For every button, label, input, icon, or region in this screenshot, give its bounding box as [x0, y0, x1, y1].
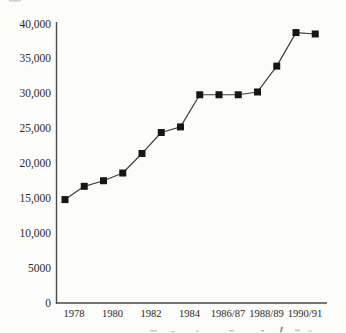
data-point-marker	[119, 170, 126, 177]
y-tick-label: 20,000	[19, 157, 51, 170]
y-axis-tick-labels: 0500010,00015,00020,00025,00030,00035,00…	[19, 18, 51, 310]
data-point-marker	[158, 129, 165, 136]
data-point-marker	[62, 196, 69, 203]
x-tick-label: 1990/91	[288, 308, 323, 319]
x-tick-label: 1978	[63, 308, 84, 319]
x-tick-label: 1988/89	[249, 308, 284, 319]
y-tick-label: 40,000	[19, 18, 51, 31]
data-point-marker	[100, 177, 107, 184]
y-tick-label: 25,000	[19, 122, 51, 135]
x-tick-label: 1980	[102, 308, 123, 319]
y-tick-label: 15,000	[19, 192, 51, 205]
data-point-marker	[81, 183, 88, 190]
data-point-marker	[312, 30, 319, 37]
x-tick-label: 1982	[140, 308, 161, 319]
y-tick-label: 0	[45, 297, 51, 309]
data-point-marker	[196, 91, 203, 98]
y-tick-label: 10,000	[19, 227, 51, 240]
growth-line-chart: 0500010,00015,00020,00025,00030,00035,00…	[0, 0, 346, 333]
y-tick-label: 30,000	[19, 87, 51, 100]
scan-artifact-bottom	[150, 327, 312, 333]
x-tick-label: 1984	[179, 308, 201, 319]
data-point-marker	[216, 91, 223, 98]
x-axis-tick-labels: 19781980198219841986/871988/891990/91	[63, 308, 322, 319]
y-tick-label: 35,000	[19, 52, 51, 65]
data-point-marker	[235, 91, 242, 98]
data-point-marker	[254, 88, 261, 95]
data-point-marker	[293, 29, 300, 36]
y-tick-label: 5000	[28, 262, 51, 274]
axes	[56, 22, 327, 304]
scan-artifact-top	[9, 0, 21, 2]
series-line	[65, 33, 315, 200]
data-point-marker	[139, 150, 146, 157]
scanned-chart-figure: 0500010,00015,00020,00025,00030,00035,00…	[0, 0, 346, 333]
data-series	[62, 29, 319, 203]
data-point-marker	[273, 63, 280, 70]
x-tick-label: 1986/87	[211, 308, 246, 319]
data-point-marker	[177, 123, 184, 130]
